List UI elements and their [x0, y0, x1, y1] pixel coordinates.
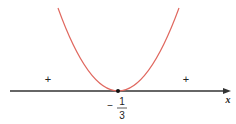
- axis-label: x: [225, 94, 231, 105]
- vertex-numerator: 1: [119, 96, 125, 107]
- sign-chart: + + x − 1 3: [0, 0, 236, 124]
- vertex-point: [116, 89, 120, 93]
- parabola-curve: [58, 8, 179, 91]
- vertex-denominator: 3: [119, 110, 125, 121]
- left-sign: +: [45, 73, 51, 85]
- vertex-sign: −: [107, 100, 113, 111]
- right-sign: +: [183, 73, 189, 85]
